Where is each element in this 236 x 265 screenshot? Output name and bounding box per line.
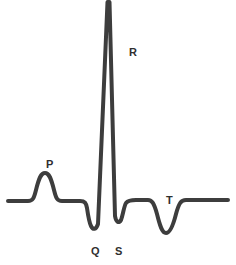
t-wave-label: T [166,195,173,206]
ecg-waveform-svg [0,0,236,265]
ecg-figure: P Q R S T [0,0,236,265]
q-wave-label: Q [91,246,100,257]
p-wave-label: P [46,159,54,170]
r-wave-label: R [129,47,137,58]
s-wave-label: S [115,246,123,257]
figure-background [0,0,236,265]
